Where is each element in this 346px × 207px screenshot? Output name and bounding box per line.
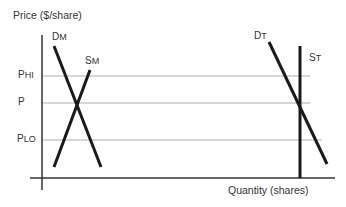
sm-label: SM	[85, 55, 99, 66]
p-label: P	[18, 96, 25, 107]
st-label: ST	[309, 52, 321, 63]
y-axis-label: Price ($/share)	[13, 9, 82, 21]
x-axis-label: Quantity (shares)	[228, 184, 309, 196]
supply-market-curve	[54, 70, 90, 167]
p-lo-label: PLO	[17, 133, 36, 144]
dm-label: DM	[52, 31, 67, 42]
p-hi-label: PHI	[18, 69, 34, 80]
dt-label: DT	[254, 30, 267, 41]
